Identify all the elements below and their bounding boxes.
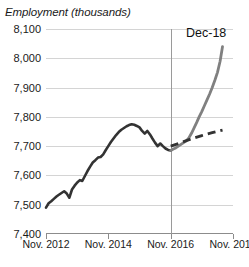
series-actual-employment [171, 47, 223, 151]
x-tick-label: Nov. 2012 [22, 238, 69, 250]
x-tick-label: Nov. 2014 [85, 238, 132, 250]
y-tick-label: 7,600 [0, 169, 41, 181]
series-layer [46, 29, 233, 234]
y-tick-label: 7,900 [0, 82, 41, 94]
chart-title: Employment (thousands) [5, 6, 131, 18]
y-tick-label: 8,100 [0, 23, 41, 35]
y-tick-label: 7,500 [0, 199, 41, 211]
series-trend-projection [171, 130, 223, 146]
chart-container: Employment (thousands) 7,4007,5007,6007,… [0, 0, 249, 267]
x-tick-label: Nov. 2016 [147, 238, 194, 250]
annotation-dec-18: Dec-18 [186, 26, 226, 40]
y-tick-label: 8,000 [0, 52, 41, 64]
x-axis-labels: Nov. 2012Nov. 2014Nov. 2016Nov. 2018 [46, 238, 233, 258]
series-historical-employment [46, 124, 171, 207]
y-tick-label: 7,800 [0, 111, 41, 123]
x-tick-label: Nov. 2018 [209, 238, 249, 250]
y-tick-label: 7,700 [0, 140, 41, 152]
